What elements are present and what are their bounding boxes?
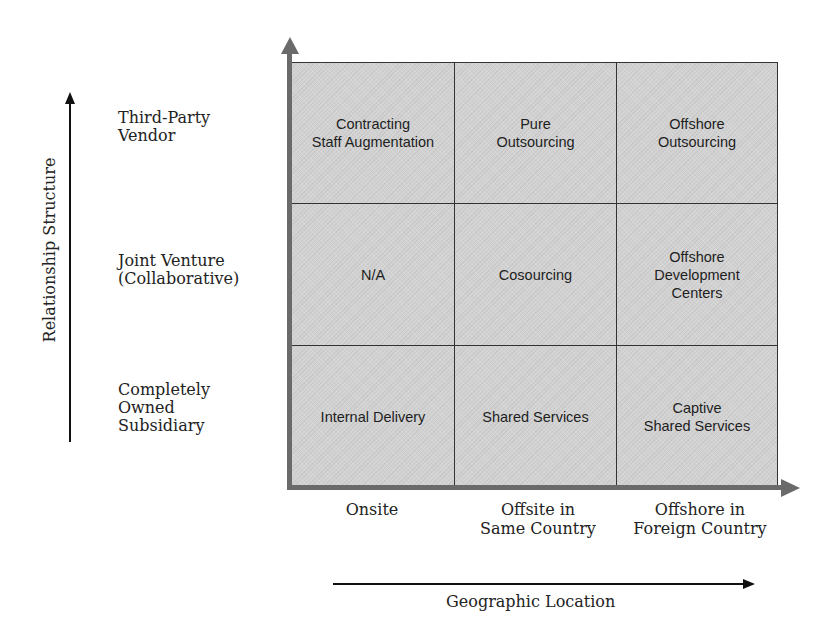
matrix-y-axis bbox=[287, 52, 292, 490]
relationship-axis-arrow-line bbox=[69, 100, 71, 442]
col-label-offsite-same-country: Offsite in Same Country bbox=[458, 500, 618, 538]
geographic-axis-arrow-line bbox=[333, 583, 745, 585]
row-label-third-party-vendor: Third-Party Vendor bbox=[118, 109, 210, 145]
cell-shared-services: Shared Services bbox=[455, 346, 617, 488]
cell-na: N/A bbox=[292, 204, 455, 346]
cell-cosourcing: Cosourcing bbox=[455, 204, 617, 346]
cell-pure-outsourcing: Pure Outsourcing bbox=[455, 63, 617, 204]
cell-contracting-staff-augmentation: Contracting Staff Augmentation bbox=[292, 63, 455, 204]
matrix-x-axis bbox=[287, 485, 782, 490]
cell-offshore-development-centers: Offshore Development Centers bbox=[617, 204, 777, 346]
col-label-onsite: Onsite bbox=[322, 500, 422, 519]
up-arrowhead-icon bbox=[281, 37, 299, 54]
y-axis-title-text: Relationship Structure bbox=[40, 158, 59, 343]
right-arrowhead-icon bbox=[781, 479, 800, 497]
x-axis-title-text: Geographic Location bbox=[446, 592, 615, 611]
cell-internal-delivery: Internal Delivery bbox=[292, 346, 455, 488]
col-label-offshore-foreign-country: Offshore in Foreign Country bbox=[615, 500, 785, 538]
up-arrow-icon bbox=[65, 92, 75, 104]
cell-captive-shared-services: Captive Shared Services bbox=[617, 346, 777, 488]
sourcing-matrix: Contracting Staff Augmentation Pure Outs… bbox=[292, 62, 778, 488]
row-label-joint-venture: Joint Venture (Collaborative) bbox=[118, 252, 239, 288]
cell-offshore-outsourcing: Offshore Outsourcing bbox=[617, 63, 777, 204]
row-label-completely-owned-subsidiary: Completely Owned Subsidiary bbox=[118, 381, 210, 435]
right-arrow-icon bbox=[743, 579, 755, 589]
